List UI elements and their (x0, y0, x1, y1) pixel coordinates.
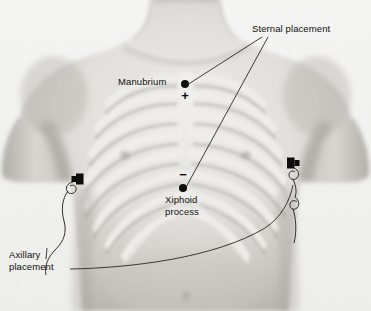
label-xiphoid-process: Xiphoid process (165, 194, 199, 218)
ecg-placement-figure: Sternal placement Manubrium Xiphoid proc… (0, 0, 371, 311)
label-axillary-placement: Axillary placement (9, 249, 54, 273)
label-sternal-placement: Sternal placement (252, 23, 330, 35)
positive-polarity-sign: + (179, 89, 191, 102)
negative-polarity-sign: − (177, 168, 189, 181)
label-manubrium: Manubrium (118, 76, 166, 88)
surface-detail (0, 0, 371, 311)
torso-illustration (0, 0, 371, 311)
